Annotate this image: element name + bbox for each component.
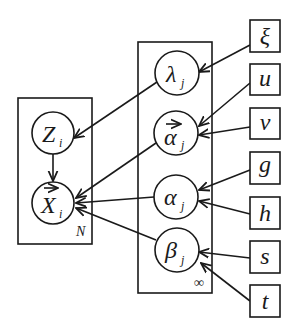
node-alpha-vector: α j (154, 111, 198, 155)
hyper-g-symbol: g (259, 151, 271, 177)
node-x-symbol: X (40, 192, 57, 218)
node-lambda: λ j (155, 51, 199, 95)
hyper-s: s (250, 241, 280, 273)
hyper-h-symbol: h (259, 200, 271, 226)
hyper-v: v (250, 108, 280, 139)
hyper-xi-symbol: ξ (260, 23, 271, 49)
hyper-t: t (250, 285, 280, 317)
node-z: Z i (32, 112, 74, 154)
hyper-u-symbol: u (259, 65, 271, 91)
node-beta-symbol: β (164, 237, 177, 263)
edge-h-alpha (199, 201, 250, 214)
edge-t-beta (201, 263, 250, 301)
graphical-model-diagram: N ∞ Z i X i λ j α j (0, 0, 296, 331)
node-lambda-circle (155, 51, 199, 95)
edge-beta-x (76, 208, 156, 240)
edge-lambda-z (74, 82, 157, 138)
node-x: X i (32, 182, 74, 224)
node-beta: β j (155, 228, 199, 272)
plate-j-label: ∞ (194, 275, 204, 290)
edge-u-alphavec (199, 83, 250, 126)
edge-v-alphavec (199, 127, 250, 135)
plate-i-label: N (75, 224, 86, 239)
edge-xi-lambda (199, 45, 250, 72)
node-z-symbol: Z (42, 121, 56, 147)
hyper-g: g (250, 151, 280, 184)
node-alpha: α j (154, 175, 198, 219)
node-beta-circle (155, 228, 199, 272)
hyper-xi: ξ (250, 20, 280, 52)
hyper-s-symbol: s (260, 243, 269, 269)
edge-alpha-x (76, 197, 154, 203)
edge-g-alpha (199, 170, 250, 190)
hyper-u: u (250, 64, 280, 95)
edges (53, 45, 250, 301)
node-x-subscript: i (59, 207, 62, 221)
hyper-v-symbol: v (260, 109, 271, 135)
edge-alphavec-x (76, 143, 156, 198)
edge-s-beta (199, 252, 250, 258)
hyper-h: h (250, 197, 280, 229)
node-alpha-vector-symbol: α (164, 124, 177, 150)
node-alpha-symbol: α (164, 184, 177, 210)
node-lambda-symbol: λ (165, 61, 176, 87)
node-z-subscript: i (59, 136, 62, 150)
